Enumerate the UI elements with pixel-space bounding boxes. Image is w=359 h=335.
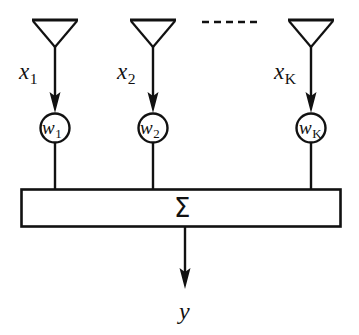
- antenna-1-right-arm: [55, 21, 77, 47]
- antenna-k-left-arm: [289, 21, 311, 47]
- weight-label-1-subscript: 1: [55, 126, 62, 141]
- antenna-2-right-arm: [153, 21, 175, 47]
- input-label-1-base: x: [19, 59, 29, 84]
- input-label-2-subscript: 2: [127, 70, 135, 87]
- input-label-1: x1: [19, 60, 38, 87]
- weight-label-2: w2: [140, 118, 160, 141]
- diagram-canvas: [0, 0, 359, 335]
- input-label-2: x2: [117, 60, 136, 87]
- input-label-2-base: x: [117, 59, 127, 84]
- beamformer-diagram: x1 x2 xK w1 w2 wK Σ y: [0, 0, 359, 335]
- antenna-2-left-arm: [131, 21, 153, 47]
- weight-label-1-base: w: [42, 117, 55, 138]
- input-label-k-subscript: K: [284, 70, 296, 87]
- summation-symbol: Σ: [174, 195, 190, 221]
- branch-2-group: [130, 20, 176, 189]
- weight-label-k: wK: [299, 118, 322, 141]
- weight-label-k-subscript: K: [312, 126, 322, 141]
- input-label-k-base: x: [274, 59, 284, 84]
- input-label-1-subscript: 1: [29, 70, 37, 87]
- antenna-k-right-arm: [311, 21, 333, 47]
- weight-label-1: w1: [42, 118, 62, 141]
- branch-k-group: [288, 20, 334, 189]
- weight-label-2-base: w: [140, 117, 153, 138]
- input-label-k: xK: [274, 60, 296, 87]
- output-label: y: [179, 299, 190, 323]
- antenna-1-left-arm: [33, 21, 55, 47]
- weight-label-2-subscript: 2: [153, 126, 160, 141]
- weight-label-k-base: w: [299, 117, 312, 138]
- branch-1-group: [32, 20, 78, 189]
